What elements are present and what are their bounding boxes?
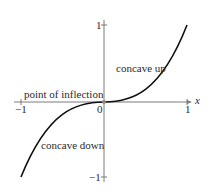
inflection-label: point of inflection — [24, 88, 104, 100]
cubic-inflection-diagram: x −1 0 1 1 −1 point of inflection concav… — [0, 0, 211, 193]
x-tick-label-1: 1 — [185, 103, 191, 115]
x-tick-label-0: 0 — [97, 103, 103, 115]
concave-down-label: concave down — [41, 139, 105, 151]
inflection-point-marker — [102, 100, 106, 104]
y-tick-label-1: 1 — [96, 19, 102, 31]
x-axis-label: x — [194, 94, 200, 106]
x-tick-label-neg1: −1 — [15, 103, 27, 115]
concave-up-label: concave up — [116, 62, 166, 74]
y-tick-label-neg1: −1 — [89, 171, 101, 183]
